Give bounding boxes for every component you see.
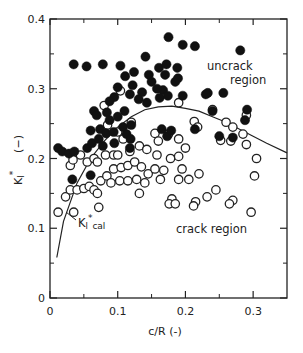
- uncrack-point: [126, 134, 135, 143]
- crack-point: [114, 151, 122, 159]
- uncrack-point: [161, 70, 170, 79]
- crack-point: [174, 175, 182, 183]
- crack-point: [54, 208, 62, 216]
- uncrack-point: [178, 91, 187, 100]
- annotation-uncrack-region: region: [230, 73, 266, 87]
- crack-point: [151, 165, 159, 173]
- svg-text:KI*cal: KI*cal: [78, 213, 105, 231]
- crack-point: [252, 154, 260, 162]
- crack-point: [242, 140, 250, 148]
- y-tick-label: 0.1: [28, 222, 46, 235]
- uncrack-point: [68, 175, 77, 184]
- crack-point: [250, 172, 258, 180]
- x-tick-label: 0.1: [109, 305, 127, 318]
- crack-point: [154, 137, 162, 145]
- crack-point: [189, 202, 197, 210]
- crack-point: [171, 200, 179, 208]
- uncrack-point: [173, 74, 182, 83]
- uncrack-point: [152, 84, 161, 93]
- crack-point: [70, 208, 78, 216]
- uncrack-point: [125, 143, 134, 152]
- uncrack-point: [129, 67, 138, 76]
- uncrack-point: [141, 52, 150, 61]
- uncrack-point: [86, 171, 95, 180]
- uncrack-point: [178, 40, 187, 49]
- crack-point: [116, 177, 124, 185]
- crack-point: [132, 175, 140, 183]
- uncrack-point: [228, 133, 237, 142]
- scatter-chart: 00.10.20.300.10.20.30.4 c/R (-) KI*(−) u…: [0, 0, 303, 353]
- uncrack-point: [105, 97, 114, 106]
- uncrack-point: [113, 83, 122, 92]
- crack-point: [212, 186, 220, 194]
- crack-point: [225, 200, 233, 208]
- crack-point: [93, 189, 101, 197]
- uncrack-point: [69, 60, 78, 69]
- uncrack-point: [128, 81, 137, 90]
- crack-point: [160, 166, 168, 174]
- crack-point: [101, 151, 109, 159]
- uncrack-point: [110, 139, 119, 148]
- uncrack-point: [163, 91, 172, 100]
- crack-point: [153, 151, 161, 159]
- uncrack-point: [82, 62, 91, 71]
- uncrack-point: [116, 61, 125, 70]
- uncrack-point: [105, 116, 114, 125]
- x-tick-label: 0.2: [177, 305, 195, 318]
- uncrack-point: [167, 126, 176, 135]
- crack-point: [229, 123, 237, 131]
- uncrack-point: [98, 60, 107, 69]
- x-tick-label: 0.3: [244, 305, 262, 318]
- annotation-uncrack: uncrack: [207, 59, 253, 73]
- uncrack-point: [142, 98, 151, 107]
- crack-point: [174, 152, 182, 160]
- y-axis-label: KI*(−): [8, 135, 26, 185]
- uncrack-point: [70, 147, 79, 156]
- uncrack-point: [173, 63, 182, 72]
- y-tick-label: 0.3: [28, 83, 46, 96]
- crack-point: [135, 189, 143, 197]
- x-tick-label: 0: [47, 305, 54, 318]
- annotation-crack-region: crack region: [176, 222, 247, 236]
- uncrack-point: [127, 120, 136, 129]
- crack-point: [95, 203, 103, 211]
- crack-point: [185, 175, 193, 183]
- uncrack-point: [98, 141, 107, 150]
- x-axis-label: c/R (-): [148, 325, 181, 338]
- uncrack-point: [92, 111, 101, 120]
- uncrack-point: [215, 132, 224, 141]
- uncrack-point: [208, 106, 217, 115]
- crack-point: [178, 165, 186, 173]
- uncrack-point: [121, 72, 130, 81]
- uncrack-point: [236, 46, 245, 55]
- crack-point: [141, 179, 149, 187]
- y-tick-label: 0.4: [28, 13, 46, 26]
- y-tick-label: 0.2: [28, 153, 46, 166]
- crack-point: [137, 163, 145, 171]
- uncrack-point: [125, 90, 134, 99]
- crack-point: [93, 158, 101, 166]
- uncrack-point: [190, 42, 199, 51]
- svg-text:KI*(−): KI*(−): [8, 135, 26, 185]
- uncrack-point: [190, 125, 199, 134]
- crack-point: [195, 170, 203, 178]
- uncrack-point: [120, 106, 129, 115]
- uncrack-point: [219, 88, 228, 97]
- uncrack-point: [240, 116, 249, 125]
- y-tick-label: 0: [38, 292, 45, 305]
- uncrack-point: [134, 95, 143, 104]
- uncrack-point: [155, 93, 164, 102]
- crack-point: [107, 179, 115, 187]
- crack-point: [239, 130, 247, 138]
- crack-point: [247, 208, 255, 216]
- crack-point: [124, 177, 132, 185]
- crack-point: [174, 135, 182, 143]
- uncrack-point: [203, 88, 212, 97]
- crack-point: [156, 175, 164, 183]
- uncrack-point: [109, 127, 118, 136]
- uncrack-point: [86, 126, 95, 135]
- crack-point: [203, 193, 211, 201]
- crack-point: [143, 145, 151, 153]
- uncrack-point: [242, 105, 251, 114]
- uncrack-point: [162, 60, 171, 69]
